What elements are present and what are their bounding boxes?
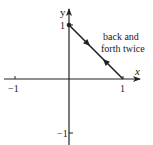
y-tick-label-1: 1 xyxy=(60,20,65,31)
annotation-line-2: forth twice xyxy=(101,43,145,54)
annotation-line-1: back and xyxy=(103,31,139,42)
y-axis-label: y xyxy=(60,6,66,18)
x-tick-label-neg1: −1 xyxy=(8,83,19,94)
x-tick-label-1: 1 xyxy=(120,83,125,94)
x-axis-label: x xyxy=(134,65,140,77)
diagram-canvas: y x 1 −1 −1 1 back and forth twice xyxy=(0,0,153,145)
y-tick-label-neg1: −1 xyxy=(57,128,68,139)
start-point-dot xyxy=(67,23,72,28)
